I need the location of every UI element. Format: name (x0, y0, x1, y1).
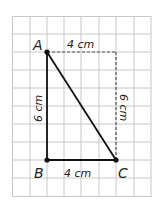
label-left-length: 6 cm (32, 95, 45, 122)
label-c: C (118, 165, 128, 181)
point-c (113, 157, 118, 162)
triangle-diagram: A B C 4 cm 4 cm 6 cm 6 cm (0, 0, 157, 204)
label-b: B (34, 165, 44, 181)
label-bottom-length: 4 cm (64, 167, 91, 180)
label-right-length: 6 cm (117, 94, 130, 121)
label-top-length: 4 cm (67, 38, 94, 51)
point-b (44, 157, 49, 162)
label-a: A (32, 37, 43, 53)
point-a (44, 49, 49, 54)
